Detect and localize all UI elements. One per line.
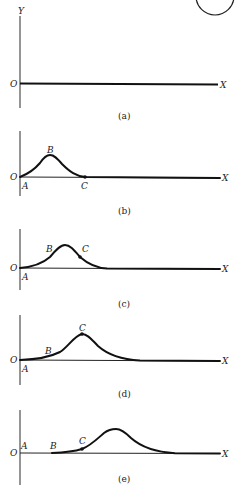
panel-caption-a: (a) — [118, 111, 130, 121]
panel-c: O A B C X (c) — [10, 229, 229, 309]
point-b-label: B — [46, 145, 54, 155]
panel-caption-b: (b) — [118, 206, 131, 216]
panel-caption-e: (e) — [118, 474, 130, 484]
panel-e: O A B C X (e) — [10, 410, 229, 485]
point-b-label: B — [45, 244, 53, 254]
point-b-label: B — [49, 441, 57, 451]
cropped-circle-decoration — [196, 0, 234, 15]
point-c-marker — [83, 175, 87, 179]
point-c-marker — [80, 447, 84, 451]
wave-pulse — [52, 429, 220, 454]
origin-label: O — [10, 263, 18, 273]
string-flat — [20, 84, 218, 85]
x-axis-label: X — [221, 264, 229, 274]
wave-pulse — [20, 155, 220, 178]
panel-a: Y O X (a) — [10, 6, 227, 121]
point-a-label: A — [21, 181, 29, 191]
origin-label: O — [10, 172, 18, 182]
origin-label: O — [10, 79, 18, 89]
origin-label: O — [10, 355, 18, 365]
y-axis-label: Y — [18, 6, 25, 16]
x-axis-label: X — [221, 356, 229, 366]
panel-caption-d: (d) — [118, 389, 131, 399]
x-axis-label: X — [221, 449, 229, 459]
point-a-label: A — [20, 441, 28, 451]
panel-b: O A B C X (b) — [10, 131, 229, 216]
panel-d: O A B C X (d) — [10, 315, 229, 399]
wave-pulse-diagram: Y O X (a) O A B C X (b) O A B C X (c) O — [0, 0, 238, 485]
point-a-label: A — [21, 272, 29, 282]
point-a-label: A — [21, 364, 29, 374]
point-c-marker — [78, 255, 82, 259]
point-c-label: C — [79, 323, 86, 333]
point-b-label: B — [44, 346, 52, 356]
x-axis-label: X — [221, 173, 229, 183]
point-c-label: C — [79, 436, 86, 446]
panel-caption-c: (c) — [118, 299, 130, 309]
point-c-label: C — [81, 181, 88, 191]
x-axis-label: X — [219, 80, 227, 90]
point-c-label: C — [82, 244, 89, 254]
origin-label: O — [10, 448, 18, 458]
